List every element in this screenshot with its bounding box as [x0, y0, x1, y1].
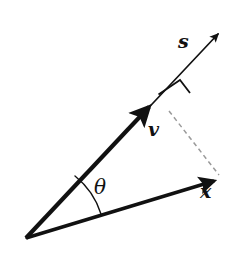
vector-label-v: v — [148, 120, 159, 139]
angle-label-theta: θ — [94, 177, 106, 197]
vector-label-x: x — [200, 182, 211, 201]
vector-projection-figure: s v x θ — [0, 0, 238, 257]
vector-label-s: s — [178, 32, 189, 51]
canvas-background — [0, 0, 238, 257]
vector-diagram-canvas — [0, 0, 238, 257]
